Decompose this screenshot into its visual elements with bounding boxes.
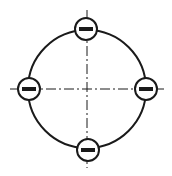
minus-sign-icon	[139, 87, 153, 91]
minus-sign-icon	[81, 148, 95, 152]
charge-bottom	[77, 139, 99, 161]
minus-sign-icon	[22, 87, 36, 91]
minus-sign-icon	[79, 27, 93, 31]
charge-ring-diagram	[0, 0, 172, 176]
charge-top	[75, 18, 97, 40]
charge-left	[18, 78, 40, 100]
charge-right	[135, 78, 157, 100]
